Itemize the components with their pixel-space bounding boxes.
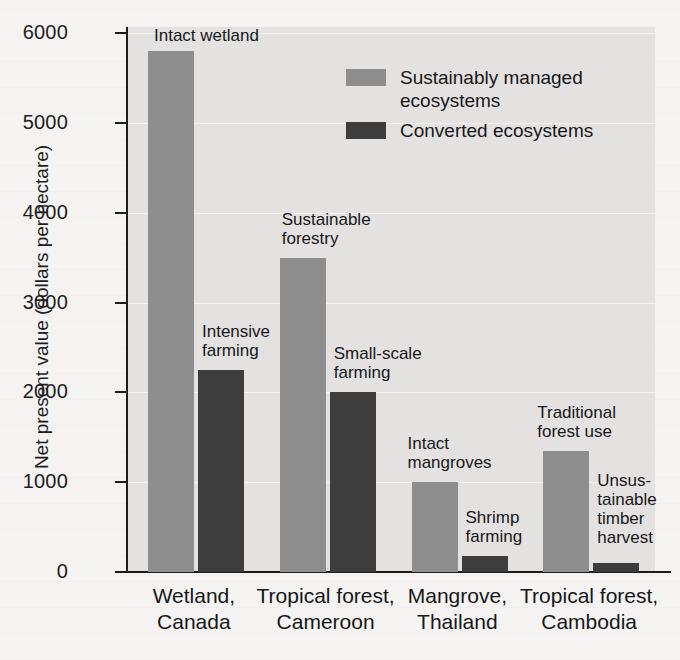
legend-label: Converted ecosystems bbox=[400, 119, 593, 142]
bar-label: Small-scale farming bbox=[334, 344, 454, 382]
y-axis-tick bbox=[115, 481, 126, 483]
bar-converted bbox=[462, 556, 508, 572]
bar-sustainably-managed bbox=[148, 51, 194, 572]
gridline bbox=[128, 303, 655, 304]
bar-label: Intact mangroves bbox=[408, 434, 518, 472]
legend-label: Sustainably managed ecosystems bbox=[400, 66, 583, 112]
y-axis-line bbox=[126, 27, 128, 573]
bar-converted bbox=[330, 392, 376, 572]
y-axis-tick bbox=[115, 571, 126, 573]
bar-label: Intact wetland bbox=[154, 26, 314, 45]
chart-legend: Sustainably managed ecosystemsConverted … bbox=[346, 66, 636, 149]
bar-sustainably-managed bbox=[543, 451, 589, 572]
y-axis-tick bbox=[115, 122, 126, 124]
bar-converted bbox=[198, 370, 244, 572]
category-label: Mangrove, Thailand bbox=[386, 583, 530, 635]
bar-label: Sustainable forestry bbox=[282, 210, 402, 248]
legend-item: Sustainably managed ecosystems bbox=[346, 66, 636, 112]
category-label: Wetland, Canada bbox=[122, 583, 266, 635]
bar-chart-figure: 6000500040003000200010000 Net present va… bbox=[0, 0, 680, 660]
y-axis-tick bbox=[115, 302, 126, 304]
y-axis-tick-label: 0 bbox=[57, 561, 68, 581]
bar-converted bbox=[593, 563, 639, 572]
bar-sustainably-managed bbox=[280, 258, 326, 572]
legend-color-swatch bbox=[346, 69, 386, 86]
y-axis-label: Net present value (dollars per hectare) bbox=[31, 27, 53, 587]
category-label: Tropical forest, Cambodia bbox=[517, 583, 661, 635]
y-axis-tick bbox=[115, 32, 126, 34]
bar-label: Traditional forest use bbox=[537, 403, 667, 441]
bar-sustainably-managed bbox=[412, 482, 458, 572]
bar-label: Unsus- tainable timber harvest bbox=[597, 471, 680, 547]
legend-color-swatch bbox=[346, 122, 386, 139]
y-axis-tick bbox=[115, 391, 126, 393]
category-label: Tropical forest, Cameroon bbox=[254, 583, 398, 635]
legend-item: Converted ecosystems bbox=[346, 119, 636, 142]
y-axis-tick bbox=[115, 212, 126, 214]
